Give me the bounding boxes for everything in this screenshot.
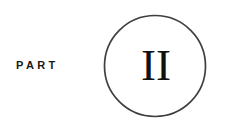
part-numeral-badge: II [103, 14, 207, 118]
part-divider-page: PART II [0, 0, 228, 132]
part-label: PART [16, 59, 59, 71]
part-numeral: II [103, 14, 207, 118]
